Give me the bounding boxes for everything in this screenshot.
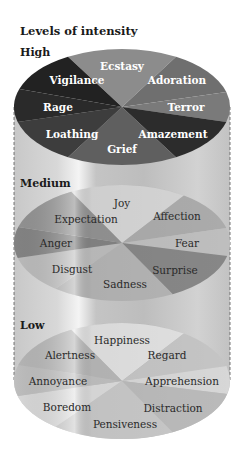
- emotion-intensity-cylinder: Levels of intensity EcstasyAdorationTerr…: [0, 0, 242, 463]
- slice-label-distraction: Distraction: [143, 402, 202, 414]
- level-label-high: High: [20, 46, 50, 59]
- level-high-disk: EcstasyAdorationTerrorAmazementGriefLoat…: [14, 49, 230, 165]
- slice-label-disgust: Disgust: [52, 263, 93, 275]
- level-medium-disk: JoyAffectionFearSurpriseSadnessDisgustAn…: [14, 185, 230, 301]
- slice-label-pensiveness: Pensiveness: [93, 418, 157, 430]
- slice-label-grief: Grief: [107, 143, 138, 155]
- slice-label-adoration: Adoration: [147, 74, 207, 86]
- slice-label-annoyance: Annoyance: [28, 375, 87, 387]
- slice-label-expectation: Expectation: [54, 213, 118, 225]
- slice-label-anger: Anger: [39, 237, 73, 249]
- level-label-medium: Medium: [20, 177, 71, 190]
- level-low-disk: HappinessRegardApprehensionDistractionPe…: [14, 323, 230, 439]
- slice-label-loathing: Loathing: [46, 128, 99, 140]
- slice-label-happiness: Happiness: [94, 334, 150, 346]
- slice-label-terror: Terror: [168, 101, 205, 113]
- slice-label-fear: Fear: [175, 237, 200, 249]
- slice-label-sadness: Sadness: [103, 278, 147, 290]
- slice-label-affection: Affection: [152, 210, 201, 222]
- slice-label-rage: Rage: [43, 101, 73, 113]
- slice-label-regard: Regard: [148, 349, 187, 361]
- slice-label-amazement: Amazement: [138, 128, 208, 140]
- slice-label-joy: Joy: [113, 197, 131, 209]
- slice-label-vigilance: Vigilance: [49, 74, 105, 86]
- diagram-title: Levels of intensity: [20, 24, 138, 38]
- slice-label-alertness: Alertness: [44, 349, 95, 361]
- slice-label-surprise: Surprise: [152, 264, 198, 276]
- slice-label-boredom: Boredom: [43, 401, 91, 413]
- level-label-low: Low: [20, 319, 45, 332]
- slice-label-apprehension: Apprehension: [144, 375, 219, 387]
- slice-label-ecstasy: Ecstasy: [100, 60, 145, 72]
